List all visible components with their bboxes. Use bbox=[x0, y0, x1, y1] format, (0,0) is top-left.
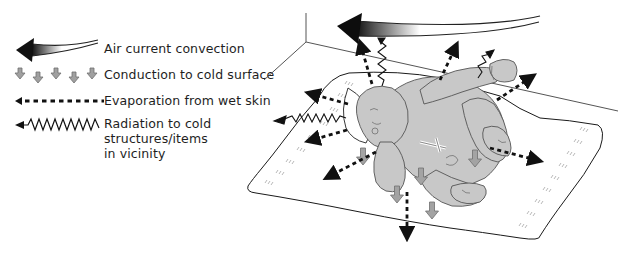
heat-loss-diagram: Air current convection Conduction to col… bbox=[0, 0, 629, 253]
convection-arrow bbox=[337, 13, 540, 44]
newborn-illustration bbox=[0, 0, 629, 253]
